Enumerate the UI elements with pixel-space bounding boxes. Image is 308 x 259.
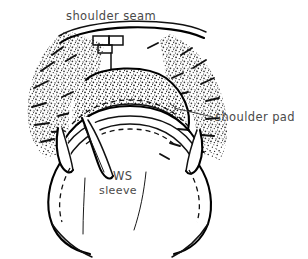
shoulder-pad-tips	[57, 128, 202, 174]
label-ws: WS	[113, 169, 132, 183]
figure-canvas: shoulder seam shoulder pad WS sleeve	[0, 0, 308, 259]
label-sleeve: sleeve	[99, 184, 137, 197]
label-shoulder-seam: shoulder seam	[66, 9, 156, 23]
sleeve-fold-flap	[82, 116, 113, 178]
label-shoulder-pad: shoulder pad	[215, 110, 295, 124]
